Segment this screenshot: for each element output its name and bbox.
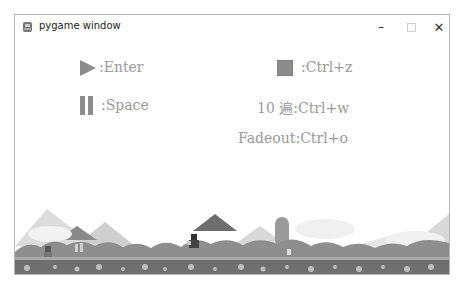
loop-hint-label: 10 遍:Ctrl+w [257, 97, 349, 117]
stop-hint-label: :Ctrl+z [301, 59, 352, 75]
window-title: pygame window [39, 20, 121, 31]
pygame-window: pygame window – ✕ :Enter :Space :Ctrl+z … [14, 14, 450, 275]
background-scene [15, 174, 449, 274]
game-canvas[interactable]: :Enter :Space :Ctrl+z 10 遍:Ctrl+w Fadeou… [15, 39, 449, 274]
title-bar[interactable]: pygame window – ✕ [15, 15, 449, 39]
minimize-button[interactable]: – [366, 15, 396, 39]
pause-icon [80, 96, 94, 115]
pause-hint-label: :Space [101, 97, 149, 113]
stop-icon [277, 60, 293, 76]
player-character [44, 246, 52, 257]
maximize-button[interactable] [396, 15, 426, 39]
fadeout-hint-label: Fadeout:Ctrl+o [238, 130, 348, 146]
pygame-app-icon [22, 21, 33, 33]
play-icon [79, 59, 97, 77]
close-button[interactable]: ✕ [424, 15, 454, 39]
play-hint-label: :Enter [99, 59, 144, 75]
maximize-icon [407, 23, 416, 32]
